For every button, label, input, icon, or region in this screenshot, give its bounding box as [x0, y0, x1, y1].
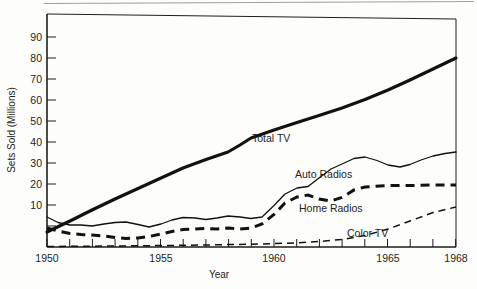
y-tick-label: 70: [30, 73, 42, 85]
x-tick-label: 1950: [35, 252, 59, 264]
y-tick-label: 90: [30, 31, 42, 43]
y-axis-ticks: [47, 37, 56, 226]
y-tick-label: 10: [30, 199, 42, 211]
series-label-auto-radios: Auto Radios: [295, 168, 352, 180]
series-label-total-tv: Total TV: [252, 132, 290, 144]
series-line-home-radios: [47, 185, 456, 239]
line-chart-canvas: 90 80 70 60 50 40 30 20 10: [0, 0, 477, 289]
x-tick-label: 1965: [376, 252, 400, 264]
y-tick-label: 40: [30, 136, 42, 148]
y-tick-label: 60: [30, 94, 42, 106]
plot-frame: [47, 14, 456, 247]
y-tick-label: 80: [30, 52, 42, 64]
plot-top-border: [47, 14, 456, 19]
series-line-auto-radios: [47, 152, 456, 227]
chart-figure: 90 80 70 60 50 40 30 20 10: [0, 0, 477, 289]
x-axis-title: Year: [209, 269, 230, 280]
series-line-total-tv: [47, 58, 456, 232]
x-tick-label: 1955: [149, 252, 173, 264]
x-tick-label: 1960: [262, 252, 286, 264]
series-label-home-radios: Home Radios: [299, 202, 363, 214]
y-tick-label: 20: [30, 178, 42, 190]
x-axis-tick-labels: 1950 1955 1960 1965 1968: [35, 252, 468, 264]
x-tick-label: 1968: [444, 252, 468, 264]
y-axis-title: Sets Sold (Millions): [6, 87, 17, 173]
series-label-color-tv: Color TV: [347, 227, 388, 239]
y-tick-label: 50: [30, 115, 42, 127]
y-tick-label: 30: [30, 157, 42, 169]
y-axis-tick-labels: 90 80 70 60 50 40 30 20 10: [30, 31, 42, 211]
